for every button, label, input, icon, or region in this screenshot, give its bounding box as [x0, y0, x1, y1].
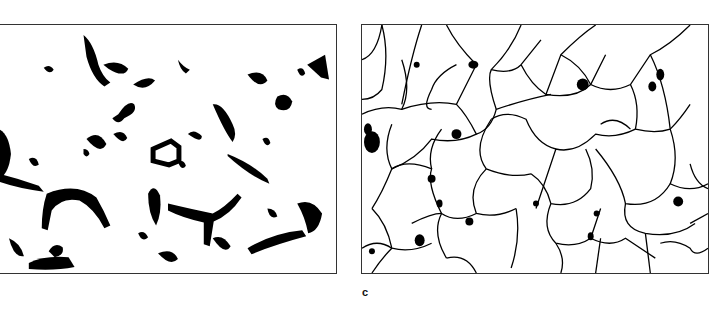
grain-boundary-panel	[361, 24, 709, 274]
micrograph-binary-panel	[0, 24, 337, 274]
binary-phase-image	[0, 25, 336, 273]
panel-label-c: c	[362, 286, 368, 298]
grain-boundary-map	[362, 25, 708, 273]
